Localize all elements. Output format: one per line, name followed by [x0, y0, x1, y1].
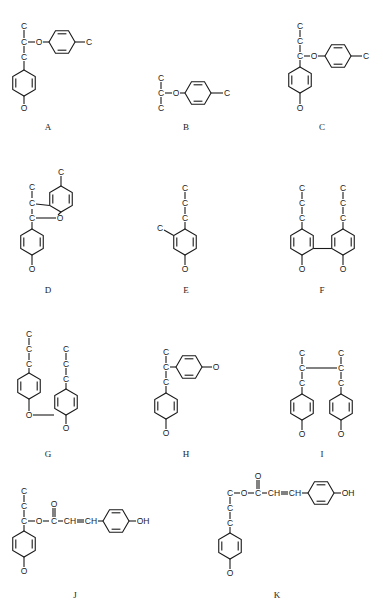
atom: O	[29, 264, 36, 274]
atom: O	[241, 488, 248, 498]
atom: C	[21, 501, 27, 511]
atom: C	[51, 516, 57, 526]
atom: O	[63, 423, 70, 433]
atom: C	[58, 167, 64, 177]
atom: C	[29, 213, 35, 223]
atom: C	[299, 348, 305, 358]
compound-label: E	[183, 285, 189, 295]
atom: O	[299, 429, 306, 439]
atom: C	[86, 37, 92, 47]
compound-label: H	[183, 449, 190, 459]
atom: C	[163, 347, 169, 357]
atom: C	[21, 516, 27, 526]
atom: C	[26, 329, 32, 339]
atom: C	[340, 198, 346, 208]
atom: C	[158, 103, 164, 113]
compound-j: C C C O C O CH CH OH O J	[13, 486, 150, 600]
compound-label: B	[183, 122, 189, 132]
atom: C	[163, 377, 169, 387]
compound-b: C C O C C B	[158, 73, 230, 132]
atom: C	[21, 486, 27, 496]
compound-c: C C C O C O C	[289, 21, 369, 132]
atom: CH	[64, 516, 76, 526]
atom: O	[311, 51, 318, 61]
compound-d: C C C C O O D	[21, 167, 73, 295]
atom: O	[21, 566, 28, 576]
atom: C	[182, 183, 188, 193]
atom: CH	[268, 488, 280, 498]
atom: C	[297, 21, 303, 31]
atom: C	[299, 213, 305, 223]
compound-label: D	[45, 285, 52, 295]
atom: C	[338, 363, 344, 373]
atom: O	[51, 499, 58, 509]
compound-e: C C C C O E	[157, 183, 196, 295]
atom: C	[26, 344, 32, 354]
atom: C	[338, 348, 344, 358]
atom: CH	[289, 488, 301, 498]
compound-label: J	[73, 590, 77, 600]
atom: C	[63, 344, 69, 354]
chemical-structures-figure: C C O C C O A C C O C C B C C C O C	[0, 0, 383, 605]
atom: O	[255, 471, 262, 481]
atom: C	[299, 183, 305, 193]
atom: C	[227, 488, 233, 498]
atom: O	[57, 213, 64, 223]
atom: O	[163, 428, 170, 438]
atom: O	[36, 516, 43, 526]
atom: C	[299, 363, 305, 373]
atom: C	[338, 378, 344, 388]
atom: C	[182, 198, 188, 208]
atom: O	[36, 37, 43, 47]
atom: OH	[342, 488, 355, 498]
atom: C	[26, 359, 32, 369]
atom: C	[340, 183, 346, 193]
compound-label: C	[319, 122, 325, 132]
atom: O	[213, 362, 220, 372]
compound-a: C C O C C O A	[13, 21, 92, 132]
atom: O	[338, 429, 345, 439]
compound-label: G	[45, 449, 52, 459]
atom: C	[21, 21, 27, 31]
atom: O	[297, 103, 304, 113]
compound-label: F	[319, 285, 324, 295]
atom: C	[363, 51, 369, 61]
atom: O	[182, 264, 189, 274]
atom: O	[340, 264, 347, 274]
compound-label: K	[274, 590, 281, 600]
atom: O	[173, 88, 180, 98]
atom: O	[299, 264, 306, 274]
atom: OH	[137, 516, 150, 526]
atom: O	[26, 410, 33, 420]
atom: O	[227, 568, 234, 578]
compound-i: C C C O C C C O I	[291, 348, 353, 459]
atom: O	[21, 103, 28, 113]
atom: C	[340, 213, 346, 223]
atom: C	[299, 378, 305, 388]
atom: C	[163, 362, 169, 372]
atom: C	[157, 223, 163, 233]
compound-f: C C C O C C C O F	[291, 183, 355, 295]
atom: C	[224, 88, 230, 98]
atom: C	[299, 198, 305, 208]
compound-label: I	[321, 449, 324, 459]
atom: C	[63, 374, 69, 384]
atom: C	[182, 213, 188, 223]
atom: CH	[85, 516, 97, 526]
atom: C	[158, 88, 164, 98]
atom: C	[227, 518, 233, 528]
atom: C	[29, 198, 35, 208]
atom: C	[29, 182, 35, 192]
compound-k: C O C O CH CH OH C C O K	[219, 471, 355, 600]
atom: C	[255, 488, 261, 498]
compound-h: C C C O O H	[155, 347, 220, 459]
atom: C	[297, 36, 303, 46]
atom: C	[21, 52, 27, 62]
atom: C	[158, 73, 164, 83]
atom: C	[63, 359, 69, 369]
compound-label: A	[45, 122, 52, 132]
atom: C	[21, 37, 27, 47]
atom: C	[227, 503, 233, 513]
compound-g: C C C O C C C O G	[18, 329, 78, 459]
atom: C	[297, 51, 303, 61]
